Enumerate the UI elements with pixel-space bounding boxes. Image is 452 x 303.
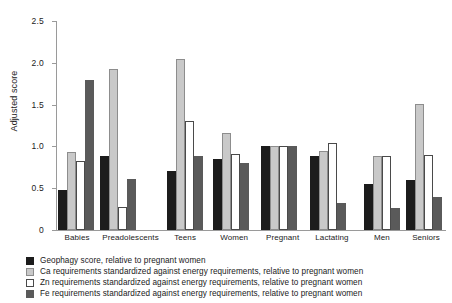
bar bbox=[85, 80, 94, 230]
legend-swatch-icon bbox=[26, 279, 34, 287]
legend-swatch-icon bbox=[26, 268, 34, 276]
bar bbox=[270, 146, 279, 230]
y-axis-tick-label: 0.5 bbox=[0, 183, 44, 193]
y-axis-title: Adjusted score bbox=[9, 41, 19, 161]
bar bbox=[288, 146, 297, 230]
y-axis-tick-label: 2.5 bbox=[0, 16, 44, 26]
chart-legend: Geophagy score, relative to pregnant wom… bbox=[26, 255, 446, 299]
category-label: Lactating bbox=[310, 233, 353, 242]
y-axis-tick-mark bbox=[52, 230, 56, 231]
legend-label: Geophagy score, relative to pregnant wom… bbox=[40, 256, 206, 265]
category-label: Seniors bbox=[406, 233, 446, 242]
legend-item: Geophagy score, relative to pregnant wom… bbox=[26, 255, 446, 266]
bar bbox=[240, 163, 249, 230]
bar bbox=[213, 159, 222, 230]
bar bbox=[67, 152, 76, 230]
bar bbox=[382, 156, 391, 230]
bar bbox=[328, 143, 337, 230]
category-label: Women bbox=[213, 233, 255, 242]
bar-group bbox=[100, 21, 161, 230]
bar-group bbox=[213, 21, 255, 230]
bar bbox=[118, 207, 127, 230]
y-axis-tick-mark bbox=[52, 188, 56, 189]
y-axis-tick-label: 2.0 bbox=[0, 58, 44, 68]
y-axis-tick-mark bbox=[52, 21, 56, 22]
x-axis-baseline bbox=[56, 230, 446, 231]
legend-swatch-icon bbox=[26, 290, 34, 298]
y-axis-tick-label: 1.5 bbox=[0, 100, 44, 110]
bar bbox=[433, 197, 442, 230]
bar bbox=[415, 104, 424, 230]
bar-group bbox=[406, 21, 446, 230]
bar bbox=[127, 179, 136, 230]
category-label: Babies bbox=[58, 233, 96, 242]
bar-group bbox=[58, 21, 96, 230]
bar bbox=[279, 146, 288, 230]
bar bbox=[109, 69, 118, 230]
y-axis-line bbox=[56, 21, 57, 230]
category-label: Teens bbox=[167, 233, 203, 242]
bar-group bbox=[310, 21, 353, 230]
bar bbox=[373, 156, 382, 230]
bar bbox=[76, 161, 85, 230]
bar bbox=[167, 171, 176, 230]
category-labels: BabiesPreadolescentsTeensWomenPregnantLa… bbox=[58, 233, 446, 242]
y-axis-tick-mark bbox=[52, 105, 56, 106]
bar-group bbox=[261, 21, 304, 230]
y-axis-tick-mark bbox=[52, 146, 56, 147]
legend-item: Ca requirements standardized against ene… bbox=[26, 266, 446, 277]
bar bbox=[424, 155, 433, 230]
bar bbox=[364, 184, 373, 230]
bar bbox=[391, 208, 400, 230]
bar bbox=[176, 59, 185, 230]
category-label: Pregnant bbox=[261, 233, 304, 242]
bar-group bbox=[167, 21, 203, 230]
bar bbox=[231, 154, 240, 230]
legend-label: Zn requirements standardized against ene… bbox=[40, 278, 362, 287]
bar bbox=[100, 156, 109, 230]
legend-label: Fe requirements standardized against ene… bbox=[40, 289, 362, 298]
bar bbox=[222, 133, 231, 230]
bar-chart-figure: 00.51.01.52.02.5 Adjusted score BabiesPr… bbox=[0, 0, 452, 303]
bar bbox=[337, 203, 346, 230]
bar bbox=[319, 151, 328, 230]
y-axis-tick-mark bbox=[52, 63, 56, 64]
bar bbox=[310, 156, 319, 230]
legend-item: Fe requirements standardized against ene… bbox=[26, 288, 446, 299]
bar bbox=[58, 190, 67, 230]
bar bbox=[194, 156, 203, 230]
y-axis-tick-label: 1.0 bbox=[0, 141, 44, 151]
bar-group bbox=[364, 21, 400, 230]
category-label: Preadolescents bbox=[100, 233, 161, 242]
legend-label: Ca requirements standardized against ene… bbox=[40, 267, 363, 276]
bar bbox=[406, 180, 415, 230]
legend-swatch-icon bbox=[26, 257, 34, 265]
y-axis-tick-label: 0 bbox=[0, 225, 44, 235]
bar bbox=[261, 146, 270, 230]
category-label: Men bbox=[364, 233, 400, 242]
legend-item: Zn requirements standardized against ene… bbox=[26, 277, 446, 288]
bar bbox=[185, 121, 194, 230]
bar-groups bbox=[58, 21, 446, 230]
